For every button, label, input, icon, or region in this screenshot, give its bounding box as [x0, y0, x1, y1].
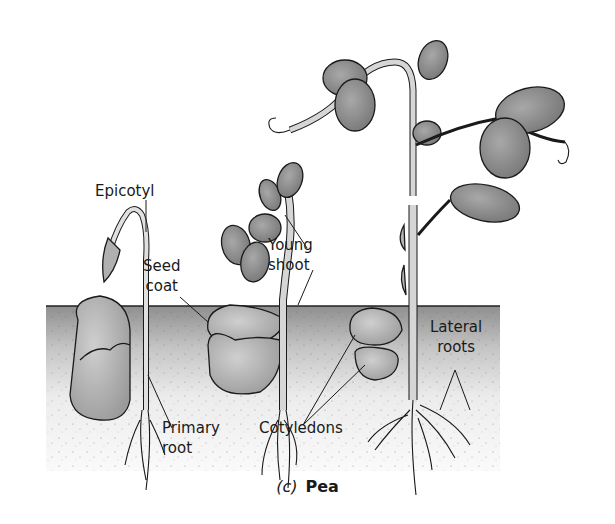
label-young-shoot: Young shoot: [268, 235, 313, 275]
label-primary-root-line2: root: [162, 438, 220, 458]
pea-germination-figure: Epicotyl Seed coat Young shoot Primary r…: [0, 0, 615, 524]
label-primary-root: Primary root: [162, 418, 220, 458]
label-lateral-roots: Lateral roots: [430, 317, 482, 357]
figure-caption: (c)Pea: [0, 477, 615, 496]
label-cotyledons: Cotyledons: [259, 418, 343, 438]
label-young-shoot-line2: shoot: [268, 255, 313, 275]
label-lateral-roots-line1: Lateral: [430, 317, 482, 337]
label-lateral-roots-line2: roots: [430, 337, 482, 357]
label-primary-root-line1: Primary: [162, 418, 220, 438]
label-seed-coat-line1: Seed: [143, 256, 181, 276]
label-seed-coat-line2: coat: [143, 276, 181, 296]
label-young-shoot-line1: Young: [268, 235, 313, 255]
caption-panel-letter: (c): [276, 477, 297, 496]
caption-panel-name: Pea: [305, 477, 338, 496]
label-epicotyl: Epicotyl: [95, 181, 155, 201]
label-seed-coat: Seed coat: [143, 256, 181, 296]
